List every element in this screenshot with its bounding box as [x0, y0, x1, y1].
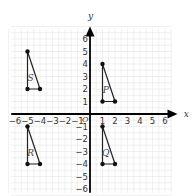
y-tick-label: −3 [75, 147, 88, 157]
vertex-point [38, 87, 42, 91]
y-tick-label: 1 [83, 97, 88, 107]
y-tick-label: −5 [75, 172, 88, 182]
x-tick-label: −2 [59, 116, 72, 126]
y-tick-label: −4 [75, 159, 88, 169]
vertex-point [100, 62, 104, 66]
y-tick-label: 6 [83, 34, 88, 44]
triangle-label: S [28, 73, 34, 83]
triangle-label: P [102, 85, 110, 95]
x-axis-arrow-icon [168, 110, 178, 119]
y-tick-label: −1 [75, 122, 88, 132]
x-tick-label: −6 [9, 116, 22, 126]
triangle-label: R [26, 148, 34, 158]
y-tick-label: −2 [75, 134, 88, 144]
x-tick-label: 2 [112, 116, 117, 126]
y-tick-label: 4 [83, 59, 88, 69]
vertex-point [113, 99, 117, 103]
x-tick-label: −4 [34, 116, 47, 126]
vertex-point [38, 162, 42, 166]
x-tick-label: 3 [125, 116, 130, 126]
vertex-point [100, 99, 104, 103]
vertex-point [113, 162, 117, 166]
x-tick-label: 5 [150, 116, 155, 126]
coordinate-plane: xyO−6−5−4−3−2−1123456654321−1−2−3−4−5−6S… [0, 0, 194, 196]
vertex-point [25, 124, 29, 128]
y-tick-label: 5 [83, 47, 88, 57]
triangle-label: Q [102, 148, 110, 158]
vertex-point [25, 49, 29, 53]
vertex-point [25, 87, 29, 91]
vertex-point [25, 162, 29, 166]
y-tick-label: 3 [83, 72, 88, 82]
x-axis-label: x [184, 109, 189, 119]
y-tick-label: 2 [83, 84, 88, 94]
x-tick-label: 4 [137, 116, 142, 126]
vertex-point [100, 124, 104, 128]
x-tick-label: 6 [162, 116, 167, 126]
y-tick-label: −6 [75, 184, 88, 194]
y-axis-label: y [87, 11, 94, 21]
vertex-point [100, 162, 104, 166]
x-tick-label: −3 [46, 116, 59, 126]
